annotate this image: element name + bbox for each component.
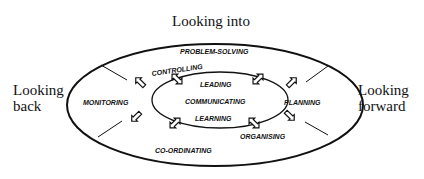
label-problem-solving: PROBLEM-SOLVING — [180, 48, 249, 55]
label-looking-forward-2: forward — [358, 98, 406, 114]
management-diagram: Looking into Looking back Looking forwar… — [0, 0, 424, 179]
label-looking-forward-1: Looking — [358, 82, 409, 98]
divider-line — [101, 65, 127, 80]
diagram-canvas: Looking into Looking back Looking forwar… — [0, 0, 424, 179]
label-organising: ORGANISING — [240, 133, 286, 140]
divider-line — [98, 121, 122, 137]
label-communicating: COMMUNICATING — [185, 98, 246, 105]
arrow-outer-upper-right-icon — [285, 75, 299, 89]
arrow-outer-lower-right-icon — [283, 109, 297, 123]
label-monitoring: MONITORING — [83, 99, 129, 106]
double-arrow-lower-right-icon — [246, 115, 262, 131]
double-arrow-upper-right-icon — [250, 71, 266, 87]
divider-line — [305, 122, 328, 135]
label-looking-back-2: back — [13, 98, 42, 114]
label-co-ordinating: CO-ORDINATING — [155, 147, 212, 154]
label-looking-into: Looking into — [172, 13, 250, 29]
arrow-outer-lower-left-icon — [129, 110, 143, 124]
divider-line — [306, 66, 328, 82]
label-leading: LEADING — [200, 81, 232, 88]
label-looking-back-1: Looking — [13, 82, 64, 98]
arrow-outer-upper-left-icon — [133, 75, 147, 89]
double-arrow-lower-left-icon — [167, 115, 183, 131]
label-learning: LEARNING — [195, 115, 232, 122]
label-planning: PLANNING — [284, 99, 321, 106]
